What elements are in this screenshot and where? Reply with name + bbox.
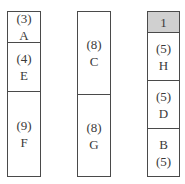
block-g-label: G — [89, 136, 98, 153]
block-b-weight: (5) — [156, 153, 171, 170]
block-f: (9) F — [7, 91, 41, 177]
block-h: (5) H — [147, 32, 180, 81]
block-b: B (5) — [147, 128, 180, 177]
block-a: (3) A — [7, 11, 41, 43]
block-g: (8) G — [77, 94, 111, 177]
block-e-weight: (4) — [16, 50, 31, 67]
block-a-weight: (3) — [16, 10, 31, 27]
block-c-weight: (8) — [86, 36, 101, 53]
block-header-1: 1 — [147, 11, 180, 33]
block-d-label: D — [159, 105, 168, 122]
block-h-label: H — [159, 57, 168, 74]
column-2: (8) C (8) G — [77, 11, 111, 177]
block-d: (5) D — [147, 80, 180, 129]
block-header-1-label: 1 — [160, 14, 167, 31]
block-g-weight: (8) — [86, 119, 101, 136]
block-f-label: F — [20, 134, 27, 151]
column-1: (3) A (4) E (9) F — [7, 11, 41, 177]
block-h-weight: (5) — [156, 40, 171, 57]
block-f-weight: (9) — [16, 117, 31, 134]
block-c-label: C — [90, 53, 99, 70]
block-d-weight: (5) — [156, 88, 171, 105]
block-c: (8) C — [77, 11, 111, 95]
column-3: 1 (5) H (5) D B (5) — [147, 11, 180, 177]
block-b-label: B — [159, 136, 168, 153]
block-e: (4) E — [7, 42, 41, 92]
block-e-label: E — [20, 67, 28, 84]
